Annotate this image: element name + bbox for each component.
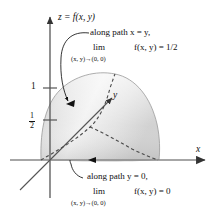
fraction-denominator: 2 — [29, 122, 35, 130]
upper-limit-subscript: (x, y)→(0, 0) — [71, 56, 106, 63]
tick-label-one: 1 — [31, 82, 36, 92]
z-axis-label: z = f(x, y) — [58, 13, 95, 23]
upper-limit-sub-to: (0, 0) — [92, 55, 106, 62]
upper-limit-sub-from: (x, y) — [71, 55, 85, 62]
y-axis-label: y — [113, 91, 117, 101]
leader-lower — [70, 160, 83, 178]
lower-limit-expression: f(x, y) = 0 — [134, 187, 171, 196]
lower-limit-sub-from: (x, y) — [71, 199, 85, 206]
fraction-numerator: 1 — [29, 112, 35, 120]
lower-limit-word: lim — [93, 187, 105, 196]
upper-limit-word: lim — [93, 43, 105, 52]
limit-surface-figure: z = f(x, y) x y 1 1 2 along path x = y, … — [0, 0, 214, 212]
x-axis-label: x — [196, 145, 200, 155]
upper-limit-expression: f(x, y) = 1/2 — [134, 43, 178, 52]
tick-label-one-half: 1 2 — [29, 112, 35, 130]
fraction-one-half: 1 2 — [29, 112, 35, 130]
lower-limit-subscript: (x, y)→(0, 0) — [71, 200, 106, 207]
lower-path-label: along path y = 0, — [87, 172, 148, 181]
upper-path-label: along path x = y, — [90, 28, 150, 37]
lower-limit-sub-to: (0, 0) — [92, 199, 106, 206]
surface-dome — [41, 73, 160, 162]
